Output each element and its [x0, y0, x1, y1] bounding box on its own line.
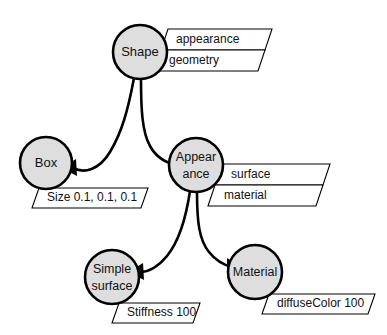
scene-graph-diagram: appearance geometry surface material Siz… [0, 0, 387, 335]
attribute-appearance-surface-label: surface [231, 167, 271, 181]
node-simple-surface[interactable]: Simple surface [85, 250, 139, 304]
attribute-appearance-surface[interactable]: surface [215, 164, 330, 185]
node-material[interactable]: Material [228, 245, 282, 299]
attribute-appearance-material[interactable]: material [208, 185, 323, 206]
attribute-appearance-material-label: material [224, 188, 267, 202]
node-simple-surface-label-line1: Simple [93, 262, 131, 276]
node-appearance-circle [169, 138, 223, 192]
attribute-shape-appearance[interactable]: appearance [161, 29, 272, 50]
attribute-box-size-label: Size 0.1, 0.1, 0.1 [47, 190, 137, 204]
node-simple-surface-label-line2: surface [92, 279, 133, 293]
edge-appearance-to-simplesurface-path [140, 191, 190, 272]
node-shape[interactable]: Shape [113, 25, 167, 79]
attribute-surface-stiffness-label: Stiffness 100 [127, 305, 196, 319]
attribute-shape-geometry-label: geometry [169, 53, 219, 67]
node-appearance[interactable]: Appear ance [169, 138, 223, 192]
node-appearance-label-line1: Appear [176, 150, 216, 164]
attribute-box-size[interactable]: Size 0.1, 0.1, 0.1 [32, 188, 148, 208]
attribute-material-diffusecolor-label: diffuseColor 100 [277, 296, 364, 310]
node-box[interactable]: Box [20, 137, 72, 189]
attribute-surface-stiffness[interactable]: Stiffness 100 [112, 303, 200, 323]
node-material-label: Material [233, 265, 277, 279]
node-appearance-label-line2: ance [182, 167, 209, 181]
attribute-shape-appearance-label: appearance [176, 32, 240, 46]
node-shape-label: Shape [121, 44, 159, 59]
diagram-canvas: appearance geometry surface material Siz… [0, 0, 387, 335]
edge-shape-to-box-path [73, 78, 134, 171]
node-simple-surface-circle [85, 250, 139, 304]
attribute-shape-geometry[interactable]: geometry [154, 50, 265, 71]
attribute-material-diffusecolor[interactable]: diffuseColor 100 [262, 294, 375, 314]
node-box-label: Box [35, 155, 58, 170]
